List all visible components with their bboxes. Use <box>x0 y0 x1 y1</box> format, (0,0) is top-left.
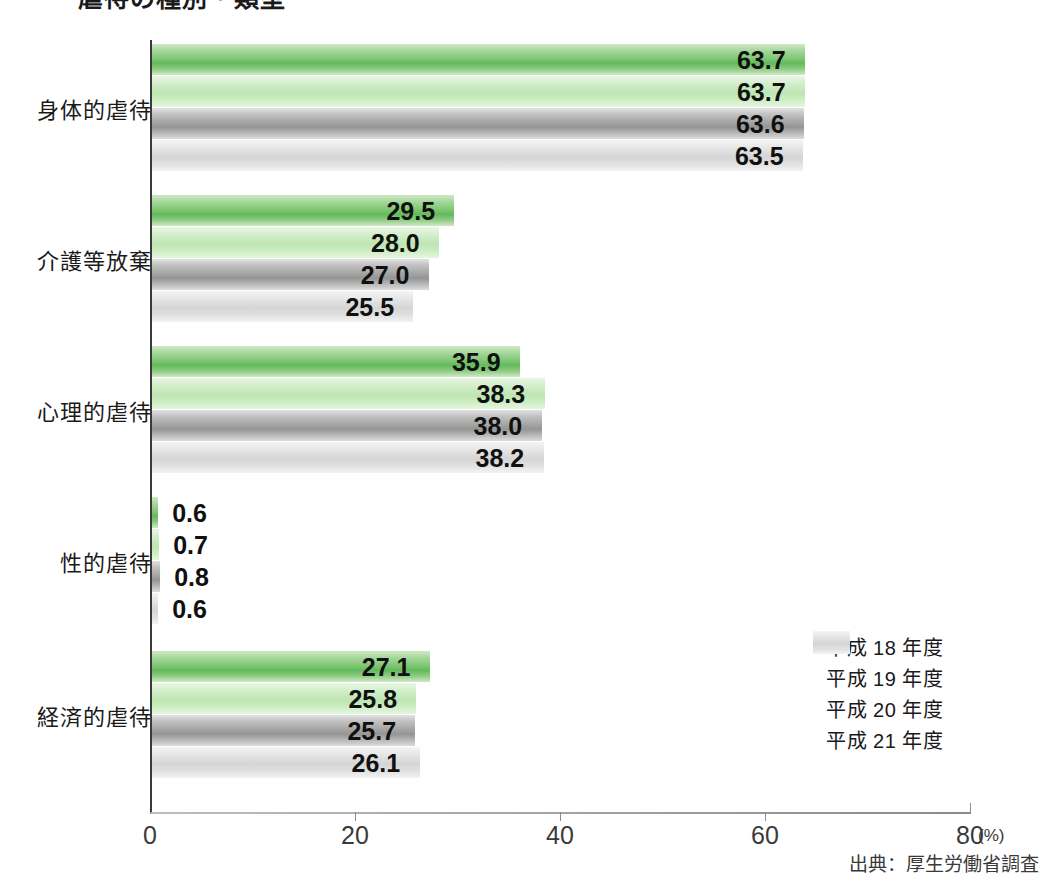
x-tick <box>560 812 561 821</box>
bar-value-label: 25.7 <box>347 717 396 746</box>
bar-value-label: 38.2 <box>476 444 525 473</box>
legend-label: 平成 20 年度 <box>826 694 943 723</box>
bar-value-label: 38.3 <box>477 380 526 409</box>
bar-group: 性的虐待0.60.70.80.6 <box>0 497 1057 624</box>
y-axis-line <box>150 40 152 812</box>
bar[interactable] <box>152 529 159 560</box>
bar-fill <box>152 497 158 528</box>
source-note: 出典：厚生労働省調査 <box>849 849 1039 876</box>
x-tick-label: 20 <box>341 821 369 850</box>
legend-label: 平成 21 年度 <box>826 725 943 754</box>
bar-value-label: 28.0 <box>371 229 420 258</box>
legend-swatch <box>813 631 850 654</box>
x-tick <box>355 812 356 821</box>
bar-group: 介護等放棄29.528.027.025.5 <box>0 195 1057 322</box>
bar-fill <box>152 593 158 624</box>
bar-value-label: 38.0 <box>474 412 523 441</box>
bar-value-label: 25.8 <box>348 685 397 714</box>
bar-group: 心理的虐待35.938.338.038.2 <box>0 346 1057 473</box>
chart-title-strip: 虐待の種別・類型 <box>0 0 1057 14</box>
bar-fill <box>152 108 804 139</box>
bar-value-label: 35.9 <box>452 348 501 377</box>
bar[interactable] <box>152 497 158 528</box>
category-label: 経済的虐待 <box>37 699 152 731</box>
bar-group: 身体的虐待63.763.763.663.5 <box>0 44 1057 171</box>
bar-fill <box>152 561 160 592</box>
category-label: 身体的虐待 <box>37 92 152 124</box>
bar[interactable] <box>152 561 160 592</box>
bar-value-label: 25.5 <box>345 293 394 322</box>
legend-item[interactable]: 平成 20 年度 <box>813 693 1003 724</box>
bar-value-label: 0.8 <box>174 563 209 592</box>
bar-value-label: 63.6 <box>736 110 785 139</box>
bar[interactable] <box>152 593 158 624</box>
bar-value-label: 0.6 <box>172 595 207 624</box>
bar-fill <box>152 529 159 560</box>
bar-value-label: 26.1 <box>352 749 401 778</box>
category-label: 性的虐待 <box>60 545 152 577</box>
x-tick <box>765 812 766 821</box>
bar-fill <box>152 44 805 75</box>
bar-value-label: 27.0 <box>361 261 410 290</box>
legend-item[interactable]: 平成 21 年度 <box>813 724 1003 755</box>
bar[interactable] <box>152 44 805 75</box>
bar[interactable] <box>152 76 805 107</box>
bar-value-label: 29.5 <box>386 197 435 226</box>
x-tick <box>970 803 971 814</box>
x-tick-label: 0 <box>143 821 157 850</box>
x-tick-label: 60 <box>751 821 779 850</box>
x-axis-unit-label: (%) <box>978 826 1004 846</box>
legend-item[interactable]: 平成 19 年度 <box>813 662 1003 693</box>
bar-fill <box>152 76 805 107</box>
legend-label: 平成 19 年度 <box>826 663 943 692</box>
bar-chart: 身体的虐待63.763.763.663.5介護等放棄29.528.027.025… <box>0 14 1057 892</box>
bar[interactable] <box>152 108 804 139</box>
x-tick-label: 40 <box>546 821 574 850</box>
bar-value-label: 63.7 <box>737 78 786 107</box>
bar-fill <box>152 140 803 171</box>
page-title: 虐待の種別・類型 <box>78 0 286 14</box>
bar-value-label: 0.7 <box>173 531 208 560</box>
bar-value-label: 63.5 <box>735 142 784 171</box>
bar-value-label: 27.1 <box>362 653 411 682</box>
bar-value-label: 0.6 <box>172 499 207 528</box>
bar-value-label: 63.7 <box>737 46 786 75</box>
category-label: 心理的虐待 <box>37 394 152 426</box>
category-label: 介護等放棄 <box>37 243 152 275</box>
bar[interactable] <box>152 140 803 171</box>
chart-legend: 平成 18 年度平成 19 年度平成 20 年度平成 21 年度 <box>813 631 1003 755</box>
